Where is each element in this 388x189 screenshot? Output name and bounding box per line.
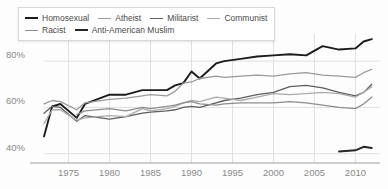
- legend-item-atheist[interactable]: Atheist: [98, 12, 141, 24]
- x-axis-tick-label: 1990: [181, 167, 202, 178]
- series-lines: [44, 39, 372, 151]
- x-axis-tick-label: 2005: [304, 167, 325, 178]
- series-line-militarist: [44, 84, 372, 121]
- legend-item-anti-american-muslim[interactable]: Anti-American Muslim: [75, 24, 175, 36]
- x-axis-tick-label: 1985: [140, 167, 161, 178]
- legend-item-militarist[interactable]: Militarist: [150, 12, 198, 24]
- legend-row: RacistAnti-American Muslim: [25, 24, 267, 36]
- series-line-racist: [77, 97, 372, 114]
- series-line-atheist: [44, 69, 372, 110]
- legend-swatch-icon: [75, 29, 88, 31]
- legend-item-label: Atheist: [115, 12, 141, 24]
- x-axis-tick-label: 1995: [222, 167, 243, 178]
- y-axis-tick-label: 40%: [6, 142, 26, 153]
- xtick-labels: 19751980198519901995200020052010: [58, 167, 366, 178]
- x-axis-tick-label: 1975: [58, 167, 79, 178]
- legend-item-racist[interactable]: Racist: [25, 24, 66, 36]
- ytick-labels: 40%60%80%: [6, 49, 26, 153]
- x-axis-tick-label: 2000: [263, 167, 284, 178]
- legend-item-homosexual[interactable]: Homosexual: [25, 12, 89, 24]
- legend-swatch-icon: [98, 18, 111, 19]
- legend-item-label: Racist: [42, 24, 66, 36]
- x-axis-tick-label: 2010: [345, 167, 366, 178]
- legend-swatch-icon: [25, 17, 38, 19]
- legend-item-label: Communist: [224, 12, 267, 24]
- legend-swatch-icon: [150, 18, 163, 19]
- legend-item-label: Homosexual: [42, 12, 89, 24]
- legend-swatch-icon: [25, 30, 38, 31]
- x-axis-tick-label: 1980: [99, 167, 120, 178]
- legend-swatch-icon: [207, 18, 220, 19]
- y-axis-tick-label: 60%: [6, 95, 26, 106]
- legend-item-communist[interactable]: Communist: [207, 12, 267, 24]
- legend-row: HomosexualAtheistMilitaristCommunist: [25, 12, 267, 24]
- legend-item-label: Militarist: [167, 12, 198, 24]
- legend-item-label: Anti-American Muslim: [92, 24, 175, 36]
- chart-root: 40%60%80% 197519801985199019952000200520…: [0, 0, 388, 189]
- y-axis-tick-label: 80%: [6, 49, 26, 60]
- chart-legend: HomosexualAtheistMilitaristCommunistRaci…: [18, 7, 275, 41]
